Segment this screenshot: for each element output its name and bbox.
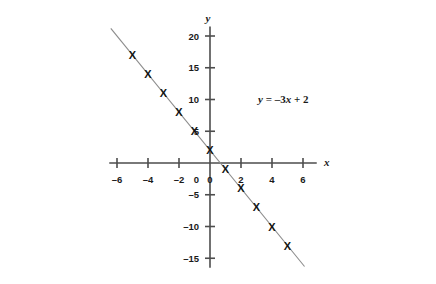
data-point-marker: X <box>222 163 230 175</box>
data-point-marker: X <box>268 221 276 233</box>
origin-label: 0 <box>194 174 199 185</box>
data-point-marker: X <box>237 182 245 194</box>
data-point-marker: X <box>175 106 183 118</box>
y-axis-tick-label: 15 <box>188 62 199 73</box>
data-point-marker: X <box>284 240 292 252</box>
y-axis-tick-label: –15 <box>183 253 200 264</box>
y-axis-label: y <box>204 12 211 24</box>
data-point-marker: X <box>160 87 168 99</box>
data-point-marker: X <box>253 201 261 213</box>
data-point-marker: X <box>144 68 152 80</box>
data-point-marker: X <box>206 144 214 156</box>
x-axis-tick-label: –6 <box>112 174 123 185</box>
x-axis-tick-label: 0 <box>207 174 212 185</box>
x-axis-tick-label: –2 <box>174 174 185 185</box>
x-axis-tick-label: –4 <box>143 174 154 185</box>
data-point-marker: X <box>129 49 137 61</box>
y-axis-tick-label: –5 <box>188 189 199 200</box>
y-axis-tick-label: 10 <box>188 94 199 105</box>
data-point-marker: X <box>191 125 199 137</box>
graph-figure: –6–4–20246–15–10–505101520xyXXXXXXXXXXXy… <box>0 0 436 284</box>
x-axis-tick-label: 4 <box>269 174 275 185</box>
x-axis-tick-label: 6 <box>300 174 305 185</box>
cartesian-plot: –6–4–20246–15–10–505101520xyXXXXXXXXXXXy… <box>0 0 436 284</box>
y-axis-tick-label: –10 <box>183 221 199 232</box>
equation-annotation: y = –3x + 2 <box>256 93 309 105</box>
x-axis-label: x <box>323 156 330 168</box>
y-axis-tick-label: 20 <box>188 31 199 42</box>
